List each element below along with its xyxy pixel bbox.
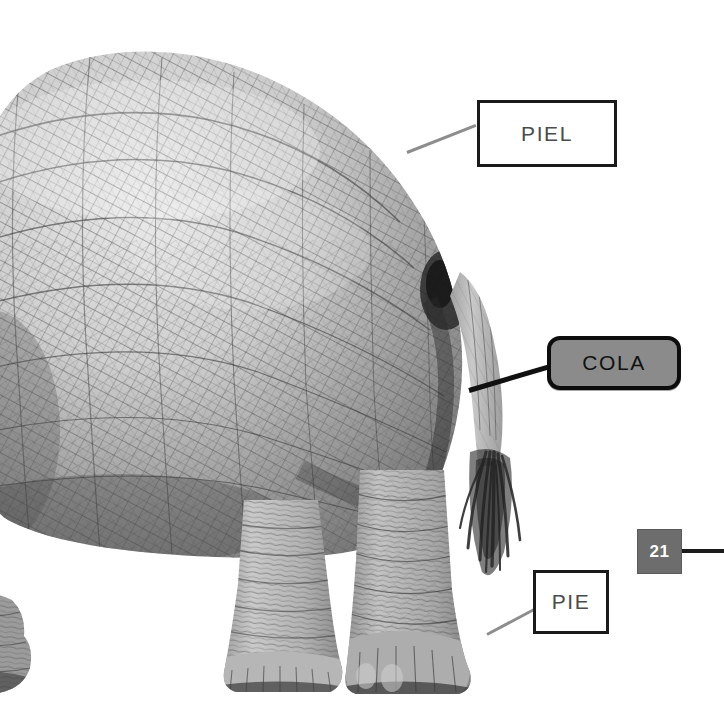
diagram-canvas: PIEL COLA PIE 21 [0, 0, 724, 711]
connector-line-badge-21 [681, 549, 724, 553]
label-pie[interactable]: PIE [533, 570, 609, 634]
badge-number-21[interactable]: 21 [637, 529, 682, 574]
label-cola[interactable]: COLA [547, 336, 681, 390]
label-piel[interactable]: PIEL [477, 100, 617, 167]
